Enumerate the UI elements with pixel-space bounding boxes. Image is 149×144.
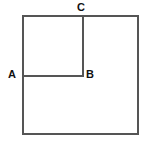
geometry-figure: C A B xyxy=(0,0,149,144)
vertex-label-c: C xyxy=(77,2,85,13)
figure-canvas xyxy=(0,0,149,144)
vertex-label-b: B xyxy=(86,69,94,80)
vertex-label-a: A xyxy=(8,69,16,80)
